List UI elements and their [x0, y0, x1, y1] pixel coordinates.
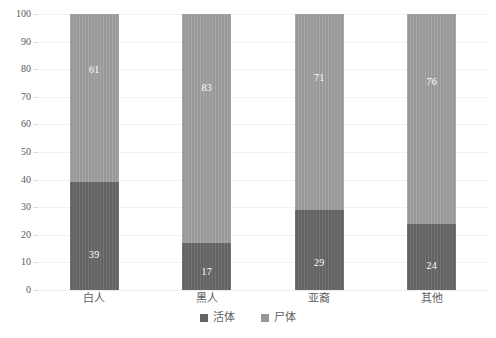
- y-axis-tick-label: 0: [1, 285, 31, 295]
- bar-value-label: 24: [426, 261, 437, 271]
- legend-item[interactable]: 尸体: [261, 312, 296, 324]
- bar-group[interactable]: 2971: [295, 14, 344, 290]
- legend-label: 尸体: [274, 312, 296, 324]
- x-axis-category-label: 其他: [376, 292, 489, 306]
- x-axis-category-label: 亚裔: [263, 292, 376, 306]
- y-axis-tick-label: 50: [1, 147, 31, 157]
- y-axis-tick-label: 10: [1, 257, 31, 267]
- bar-value-label: 76: [426, 77, 437, 87]
- bar-segment-活体[interactable]: 24: [407, 224, 456, 290]
- y-axis-tick-label: 70: [1, 92, 31, 102]
- y-axis: 0102030405060708090100: [0, 0, 38, 300]
- chart-legend: 活体尸体: [0, 312, 496, 324]
- y-axis-tick-label: 90: [1, 37, 31, 47]
- bar-value-label: 17: [201, 267, 212, 277]
- x-axis-category-label: 黑人: [151, 292, 264, 306]
- y-axis-tick-label: 100: [1, 9, 31, 19]
- bar-segment-尸体[interactable]: 71: [295, 14, 344, 210]
- bar-segment-活体[interactable]: 17: [182, 243, 231, 290]
- bar-value-label: 71: [314, 73, 325, 83]
- y-axis-tick-label: 60: [1, 119, 31, 129]
- legend-swatch-dead-icon: [261, 314, 269, 322]
- gridline: [38, 290, 488, 291]
- bar-segment-尸体[interactable]: 61: [70, 14, 119, 182]
- bar-segment-尸体[interactable]: 76: [407, 14, 456, 224]
- legend-swatch-live-icon: [200, 314, 208, 322]
- x-axis-category-label: 白人: [38, 292, 151, 306]
- bar-value-label: 29: [314, 258, 325, 268]
- legend-item[interactable]: 活体: [200, 312, 235, 324]
- y-axis-tick-label: 40: [1, 175, 31, 185]
- y-axis-tick-label: 80: [1, 64, 31, 74]
- bar-segment-活体[interactable]: 39: [70, 182, 119, 290]
- bar-value-label: 61: [89, 65, 100, 75]
- bar-segment-尸体[interactable]: 83: [182, 14, 231, 243]
- stacked-bar-chart: 0102030405060708090100 3961178329712476 …: [0, 0, 496, 338]
- legend-label: 活体: [213, 312, 235, 324]
- bar-group[interactable]: 3961: [70, 14, 119, 290]
- bar-value-label: 39: [89, 250, 100, 260]
- y-axis-tick-label: 20: [1, 230, 31, 240]
- bar-group[interactable]: 2476: [407, 14, 456, 290]
- bar-segment-活体[interactable]: 29: [295, 210, 344, 290]
- plot-area: 3961178329712476: [38, 14, 488, 290]
- y-axis-tick-label: 30: [1, 202, 31, 212]
- bar-value-label: 83: [201, 83, 212, 93]
- bar-group[interactable]: 1783: [182, 14, 231, 290]
- x-axis: 白人黑人亚裔其他: [38, 292, 488, 312]
